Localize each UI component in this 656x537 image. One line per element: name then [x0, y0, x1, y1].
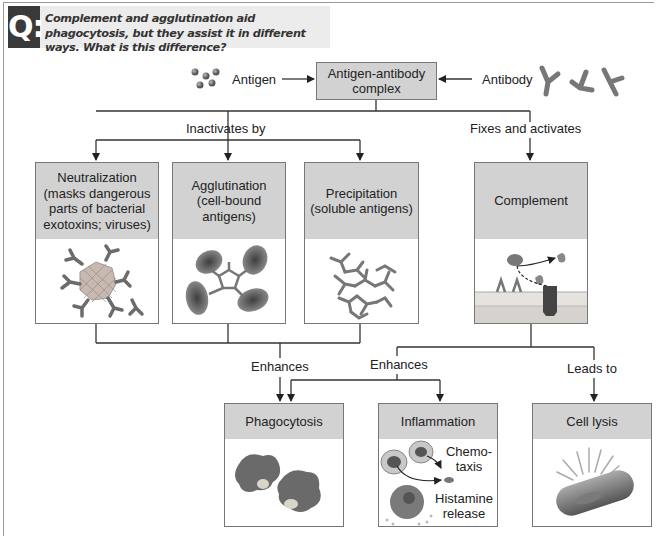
- agglutinated-cells-icon: [173, 240, 285, 323]
- complement-membrane-icon: [475, 240, 587, 323]
- outcome-title: Inflammation: [379, 404, 497, 439]
- mechanism-title: Precipitation (soluble antigens): [305, 163, 418, 239]
- mechanism-title: Complement: [475, 163, 587, 239]
- outcome-box-inflammation: Inflammation Chemo-taxis Histamine relea…: [378, 403, 498, 527]
- phagocyte-icon: [225, 440, 343, 526]
- complex-label: Antigen-antibody complex: [317, 63, 436, 99]
- mechanism-box-agglutination: Agglutination (cell-bound antigens): [172, 162, 286, 324]
- edge-label-inactivates-by: Inactivates by: [186, 121, 266, 136]
- lysed-cell-icon: [533, 440, 651, 526]
- mechanism-box-precipitation: Precipitation (soluble antigens): [304, 162, 419, 324]
- antigen-label: Antigen: [232, 72, 276, 87]
- outcome-box-phagocytosis: Phagocytosis: [224, 403, 344, 527]
- antigen-icon: [190, 66, 230, 96]
- outcome-title: Cell lysis: [533, 404, 651, 439]
- histamine-release-label: Histamine release: [431, 491, 497, 521]
- antibody-lattice-icon: [305, 240, 418, 323]
- chemotaxis-label: Chemo-taxis: [445, 444, 493, 474]
- mechanism-box-complement: Complement: [474, 162, 588, 324]
- virus-antibody-icon: [36, 240, 158, 323]
- antibody-label: Antibody: [482, 72, 533, 87]
- mechanism-title: Agglutination (cell-bound antigens): [173, 163, 285, 239]
- outcome-box-cell-lysis: Cell lysis: [532, 403, 652, 527]
- outcome-title: Phagocytosis: [225, 404, 343, 439]
- antigen-antibody-complex-box: Antigen-antibody complex: [316, 62, 437, 100]
- mechanism-box-neutralization: Neutralization (masks dangerous parts of…: [35, 162, 159, 324]
- edge-label-enhances-phagocytosis: Enhances: [251, 359, 309, 374]
- antibody-icon: [536, 62, 626, 98]
- mechanism-title: Neutralization (masks dangerous parts of…: [36, 163, 158, 239]
- edge-label-enhances-inflammation: Enhances: [370, 357, 428, 372]
- edge-label-leads-to: Leads to: [567, 361, 617, 376]
- edge-label-fixes-and-activates: Fixes and activates: [470, 121, 581, 136]
